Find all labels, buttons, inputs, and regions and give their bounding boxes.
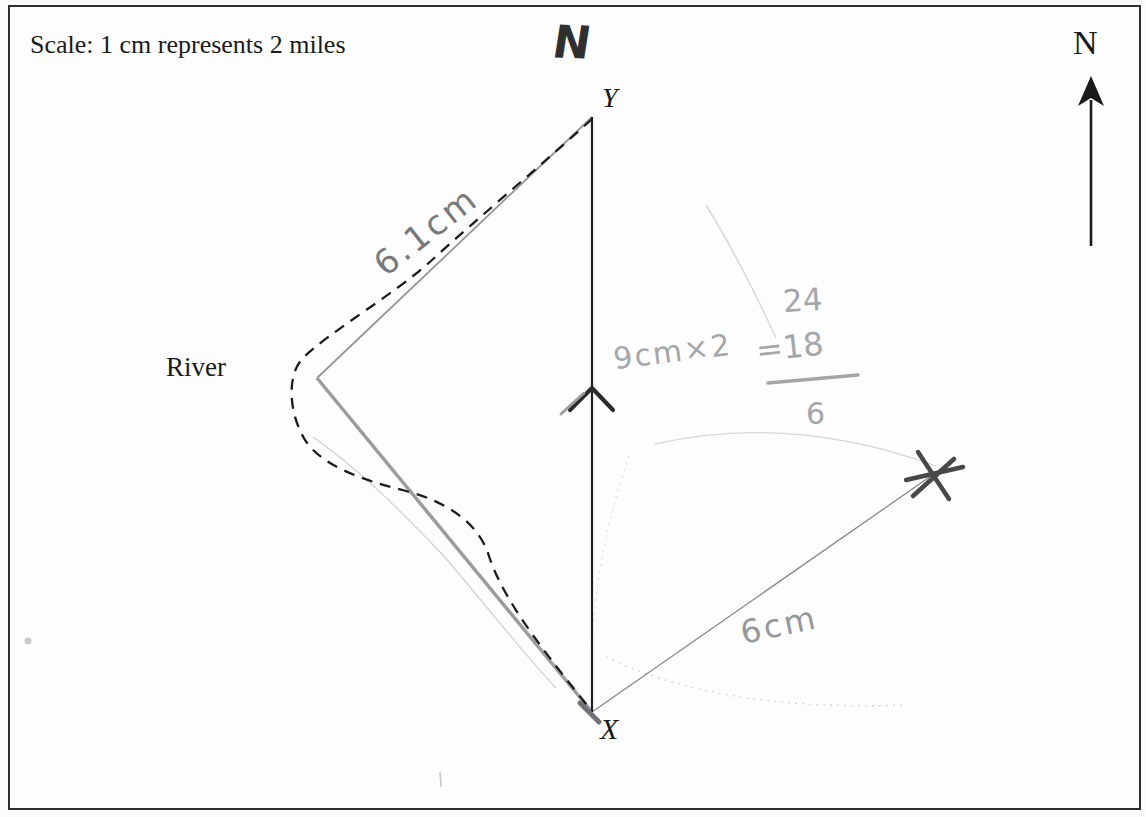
north-label-printed: N [1073, 24, 1098, 62]
river-label: River [166, 352, 226, 383]
xy-arrowhead-ghost-stroke [561, 393, 584, 414]
point-y-label: Y [602, 82, 618, 114]
map-drawing [0, 0, 1146, 817]
annotation-working-denominator: 6 [806, 396, 825, 431]
annotation-working-result: =18 [754, 325, 825, 370]
annotation-working-numerator: 24 [782, 281, 824, 320]
north-arrow-icon [1078, 76, 1104, 246]
bearing-line-from-x [592, 469, 941, 712]
scale-note: Scale: 1 cm represents 2 miles [30, 30, 346, 60]
faint-tick-mark [440, 772, 441, 787]
faint-arc-left [591, 456, 629, 648]
faint-arc-upper [655, 433, 936, 466]
line-y-to-river [317, 117, 592, 378]
faint-diagonal-stroke [706, 205, 776, 338]
point-x-tick [580, 703, 599, 722]
faint-arc-lower [606, 657, 905, 706]
line-river-to-x [317, 378, 592, 712]
point-x-label: X [600, 712, 618, 746]
fraction-bar [768, 375, 858, 383]
paper-speck [25, 638, 32, 645]
faint-stray-line [313, 437, 556, 688]
